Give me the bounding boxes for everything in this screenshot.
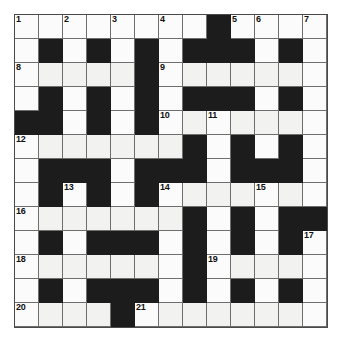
- crossword-cell[interactable]: [111, 207, 135, 231]
- crossword-cell[interactable]: [111, 63, 135, 87]
- crossword-cell[interactable]: [39, 303, 63, 327]
- crossword-cell[interactable]: [255, 87, 279, 111]
- crossword-cell[interactable]: 18: [15, 255, 39, 279]
- crossword-cell[interactable]: [231, 303, 255, 327]
- crossword-cell[interactable]: [183, 15, 207, 39]
- crossword-cell[interactable]: [39, 255, 63, 279]
- crossword-cell[interactable]: [207, 207, 231, 231]
- crossword-cell[interactable]: 16: [15, 207, 39, 231]
- crossword-cell[interactable]: [15, 159, 39, 183]
- crossword-cell[interactable]: [279, 255, 303, 279]
- crossword-cell[interactable]: [111, 135, 135, 159]
- crossword-grid[interactable]: 123456789101112131415161718192021: [14, 14, 328, 328]
- crossword-cell[interactable]: [63, 135, 87, 159]
- crossword-cell[interactable]: [15, 231, 39, 255]
- crossword-cell[interactable]: [111, 159, 135, 183]
- crossword-cell[interactable]: [15, 279, 39, 303]
- crossword-cell[interactable]: [111, 39, 135, 63]
- crossword-cell[interactable]: [279, 15, 303, 39]
- crossword-cell[interactable]: 20: [15, 303, 39, 327]
- crossword-cell[interactable]: [63, 231, 87, 255]
- crossword-cell[interactable]: 14: [159, 183, 183, 207]
- crossword-cell[interactable]: [159, 135, 183, 159]
- crossword-cell[interactable]: [231, 111, 255, 135]
- crossword-cell[interactable]: [111, 183, 135, 207]
- crossword-cell[interactable]: [303, 63, 327, 87]
- crossword-cell[interactable]: 10: [159, 111, 183, 135]
- crossword-cell[interactable]: [63, 255, 87, 279]
- crossword-cell[interactable]: [159, 255, 183, 279]
- crossword-cell[interactable]: [255, 63, 279, 87]
- crossword-cell[interactable]: 19: [207, 255, 231, 279]
- crossword-cell[interactable]: 5: [231, 15, 255, 39]
- crossword-cell[interactable]: 4: [159, 15, 183, 39]
- crossword-cell[interactable]: [183, 63, 207, 87]
- crossword-cell[interactable]: [63, 279, 87, 303]
- crossword-cell[interactable]: [63, 39, 87, 63]
- crossword-cell[interactable]: 6: [255, 15, 279, 39]
- crossword-cell[interactable]: [207, 63, 231, 87]
- crossword-cell[interactable]: [111, 111, 135, 135]
- crossword-cell[interactable]: [303, 159, 327, 183]
- crossword-cell[interactable]: [63, 207, 87, 231]
- crossword-cell[interactable]: [87, 15, 111, 39]
- crossword-cell[interactable]: [15, 87, 39, 111]
- crossword-cell[interactable]: [255, 231, 279, 255]
- crossword-cell[interactable]: [39, 135, 63, 159]
- crossword-cell[interactable]: [15, 39, 39, 63]
- crossword-cell[interactable]: [87, 63, 111, 87]
- crossword-cell[interactable]: [279, 63, 303, 87]
- crossword-cell[interactable]: 7: [303, 15, 327, 39]
- crossword-cell[interactable]: [255, 279, 279, 303]
- crossword-cell[interactable]: [63, 303, 87, 327]
- crossword-cell[interactable]: [303, 111, 327, 135]
- crossword-cell[interactable]: 21: [135, 303, 159, 327]
- crossword-cell[interactable]: [39, 63, 63, 87]
- crossword-cell[interactable]: [159, 39, 183, 63]
- crossword-cell[interactable]: [135, 135, 159, 159]
- crossword-cell[interactable]: [279, 183, 303, 207]
- crossword-cell[interactable]: [63, 111, 87, 135]
- crossword-cell[interactable]: 17: [303, 231, 327, 255]
- crossword-cell[interactable]: [39, 207, 63, 231]
- crossword-cell[interactable]: [231, 255, 255, 279]
- crossword-cell[interactable]: [183, 183, 207, 207]
- crossword-cell[interactable]: [111, 255, 135, 279]
- crossword-cell[interactable]: [63, 87, 87, 111]
- crossword-cell[interactable]: [135, 15, 159, 39]
- crossword-cell[interactable]: [207, 279, 231, 303]
- crossword-cell[interactable]: [111, 87, 135, 111]
- crossword-cell[interactable]: [183, 303, 207, 327]
- crossword-cell[interactable]: [255, 135, 279, 159]
- crossword-cell[interactable]: [255, 111, 279, 135]
- crossword-cell[interactable]: [135, 255, 159, 279]
- crossword-cell[interactable]: [207, 303, 231, 327]
- crossword-cell[interactable]: [303, 39, 327, 63]
- crossword-cell[interactable]: [87, 135, 111, 159]
- crossword-cell[interactable]: [303, 87, 327, 111]
- crossword-cell[interactable]: [159, 87, 183, 111]
- crossword-cell[interactable]: [183, 111, 207, 135]
- crossword-cell[interactable]: [15, 183, 39, 207]
- crossword-cell[interactable]: [255, 207, 279, 231]
- crossword-cell[interactable]: [279, 111, 303, 135]
- crossword-cell[interactable]: [159, 279, 183, 303]
- crossword-cell[interactable]: 9: [159, 63, 183, 87]
- crossword-cell[interactable]: 13: [63, 183, 87, 207]
- crossword-cell[interactable]: [207, 159, 231, 183]
- crossword-cell[interactable]: [87, 303, 111, 327]
- crossword-cell[interactable]: [255, 39, 279, 63]
- crossword-cell[interactable]: [135, 207, 159, 231]
- crossword-cell[interactable]: [87, 207, 111, 231]
- crossword-cell[interactable]: [63, 63, 87, 87]
- crossword-cell[interactable]: [303, 303, 327, 327]
- crossword-cell[interactable]: [303, 279, 327, 303]
- crossword-cell[interactable]: 11: [207, 111, 231, 135]
- crossword-cell[interactable]: [207, 231, 231, 255]
- crossword-cell[interactable]: 3: [111, 15, 135, 39]
- crossword-cell[interactable]: [231, 183, 255, 207]
- crossword-cell[interactable]: [159, 303, 183, 327]
- crossword-cell[interactable]: [39, 15, 63, 39]
- crossword-cell[interactable]: [207, 135, 231, 159]
- crossword-cell[interactable]: 1: [15, 15, 39, 39]
